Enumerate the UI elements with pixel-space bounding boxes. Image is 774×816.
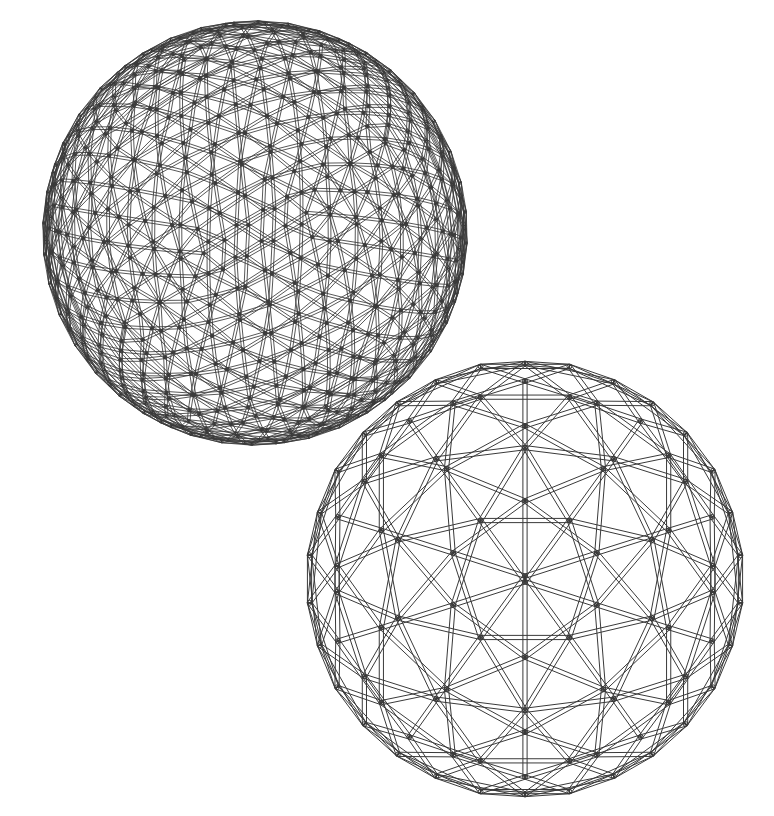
drawing-canvas: Geodesic Sphere Structures [0, 0, 774, 816]
geodesic-structures-illustration [0, 0, 774, 816]
